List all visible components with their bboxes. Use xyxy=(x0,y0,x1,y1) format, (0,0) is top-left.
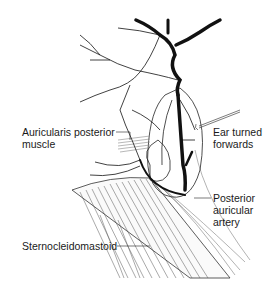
label-line: forwards xyxy=(213,138,262,150)
label-sternocleidomastoid: Sternocleidomastoid xyxy=(22,240,117,252)
label-line: artery xyxy=(213,216,255,228)
label-posterior-auricular-artery: Posterior auricular artery xyxy=(213,192,255,228)
anatomy-figure: Auricularis posterior muscle Ear turned … xyxy=(0,0,276,288)
label-ear-turned-forwards: Ear turned forwards xyxy=(213,126,262,150)
label-line: Auricularis posterior xyxy=(22,126,115,138)
ear-outline xyxy=(146,88,202,197)
label-line: Posterior xyxy=(213,192,255,204)
label-line: auricular xyxy=(213,204,255,216)
label-line: Sternocleidomastoid xyxy=(22,240,117,252)
label-line: Ear turned xyxy=(213,126,262,138)
label-auricularis-posterior-muscle: Auricularis posterior muscle xyxy=(22,126,115,150)
label-line: muscle xyxy=(22,138,115,150)
sternocleidomastoid-muscle xyxy=(72,178,230,279)
